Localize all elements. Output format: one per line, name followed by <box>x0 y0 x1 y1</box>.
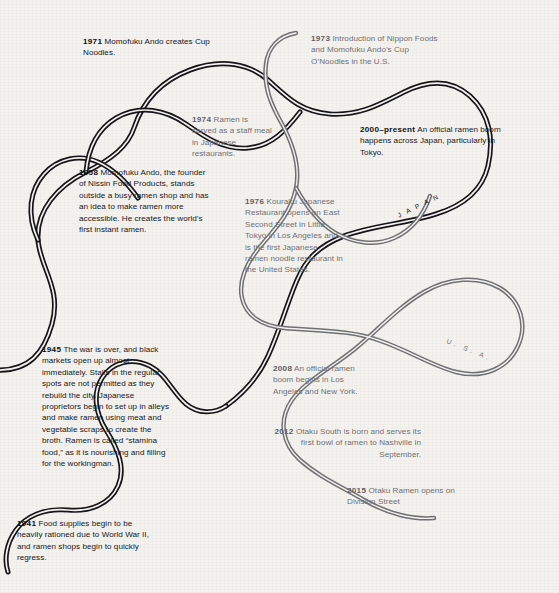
entry-text: Kouraku Japanese Restaurant opens on Eas… <box>245 197 343 274</box>
timeline-entry-1945[interactable]: 1945 The war is over, and black markets … <box>42 344 173 469</box>
entry-text: Introduction of Nippon Foods and Momofuk… <box>311 34 438 66</box>
timeline-entry-2012[interactable]: 2012 Otaku South is born and serves its … <box>270 426 421 460</box>
timeline-entry-1973[interactable]: 1973 Introduction of Nippon Foods and Mo… <box>311 33 446 67</box>
timeline-entry-2015[interactable]: 2015 Otaku Ramen opens on Division Stree… <box>347 485 457 508</box>
entry-text: Food supplies begin to be heavily ration… <box>17 519 149 562</box>
entry-text: Momofuku Ando creates Cup Noodles. <box>83 37 210 57</box>
timeline-canvas: J A P A N U. S. A. 1971 Momofuku Ando cr… <box>0 0 559 593</box>
timeline-entry-2000-present[interactable]: 2000–present An official ramen boom happ… <box>360 124 520 158</box>
entry-year: 1941 <box>17 519 36 528</box>
entry-text: Momofuku Ando, the founder of Nissin Foo… <box>79 168 209 234</box>
entry-year: 1945 <box>42 345 61 354</box>
entry-year: 2000–present <box>360 125 415 134</box>
entry-year: 1974 <box>192 115 211 124</box>
entry-year: 2008 <box>273 364 292 373</box>
timeline-entry-1974[interactable]: 1974 Ramen is served as a staff meal in … <box>192 114 272 160</box>
timeline-entry-1958[interactable]: 1958 Momofuku Ando, the founder of Nissi… <box>79 167 212 235</box>
timeline-entry-2008[interactable]: 2008 An official ramen boom begins in Lo… <box>273 363 368 397</box>
entry-text: The war is over, and black markets open … <box>42 345 169 468</box>
entry-year: 1971 <box>83 37 102 46</box>
entry-year: 1958 <box>79 168 98 177</box>
entry-text: Otaku South is born and serves its first… <box>296 427 421 459</box>
timeline-entry-1941[interactable]: 1941 Food supplies begin to be heavily r… <box>17 518 157 564</box>
entry-year: 2015 <box>347 486 366 495</box>
noodle-paths <box>0 0 559 593</box>
timeline-entry-1976[interactable]: 1976 Kouraku Japanese Restaurant opens o… <box>245 196 343 276</box>
entry-year: 1973 <box>311 34 330 43</box>
entry-year: 2012 <box>274 427 293 436</box>
entry-year: 1976 <box>245 197 264 206</box>
timeline-entry-1971[interactable]: 1971 Momofuku Ando creates Cup Noodles. <box>83 36 211 59</box>
